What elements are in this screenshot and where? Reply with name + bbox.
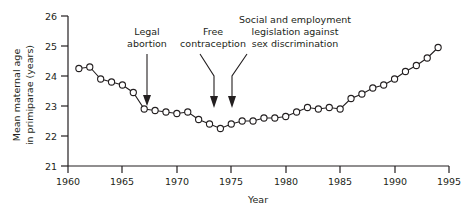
x-tick-label: 1970 bbox=[165, 176, 189, 187]
data-point bbox=[283, 113, 289, 119]
annotation-arrow-head bbox=[210, 96, 218, 108]
data-point bbox=[424, 55, 430, 61]
chart-container: 26 25 24 23 22 21 1960 1965 1970 1975 19… bbox=[0, 0, 467, 214]
data-point bbox=[250, 118, 256, 124]
data-point bbox=[163, 109, 169, 115]
data-point bbox=[76, 65, 82, 71]
data-point bbox=[174, 110, 180, 116]
data-point bbox=[348, 95, 354, 101]
data-point bbox=[206, 121, 212, 127]
data-point bbox=[370, 85, 376, 91]
data-point bbox=[196, 116, 202, 122]
annotation-arrow-shaft bbox=[232, 54, 247, 98]
annotation-text-line1: Free bbox=[203, 26, 223, 37]
y-tick-label: 23 bbox=[45, 101, 57, 112]
annotation-text-line1: Legal bbox=[134, 26, 159, 37]
y-tick-label: 21 bbox=[45, 161, 57, 172]
x-tick-label: 1985 bbox=[328, 176, 352, 187]
y-axis-title-line1: Mean maternal age bbox=[11, 49, 22, 142]
x-tick-label: 1995 bbox=[437, 176, 461, 187]
annotation-text-line2: legislation against bbox=[252, 26, 339, 37]
y-tick-label: 25 bbox=[45, 41, 57, 52]
data-point bbox=[435, 44, 441, 50]
data-point bbox=[185, 109, 191, 115]
data-point bbox=[217, 125, 223, 131]
x-axis-ticks bbox=[68, 166, 449, 173]
data-point bbox=[108, 79, 114, 85]
x-tick-label: 1975 bbox=[219, 176, 243, 187]
data-point bbox=[272, 115, 278, 121]
y-axis-title-line2: in primiparae (years) bbox=[24, 45, 35, 145]
data-point bbox=[315, 106, 321, 112]
annotation-free-contraception: Free contraception bbox=[180, 26, 246, 108]
annotation-text-line3: sex discrimination bbox=[252, 38, 339, 49]
x-tick-label: 1965 bbox=[110, 176, 134, 187]
data-point bbox=[381, 82, 387, 88]
annotation-arrow-head bbox=[228, 96, 236, 108]
data-point bbox=[239, 118, 245, 124]
data-point bbox=[391, 76, 397, 82]
y-tick-label: 26 bbox=[45, 11, 57, 22]
x-tick-label: 1980 bbox=[274, 176, 298, 187]
data-point bbox=[261, 115, 267, 121]
x-axis-tick-labels: 1960 1965 1970 1975 1980 1985 1990 1995 bbox=[56, 176, 461, 187]
y-tick-label: 22 bbox=[45, 131, 57, 142]
data-point bbox=[98, 76, 104, 82]
data-point bbox=[152, 107, 158, 113]
data-point bbox=[413, 62, 419, 68]
annotation-text-line2: abortion bbox=[127, 38, 167, 49]
data-point bbox=[87, 64, 93, 70]
data-point bbox=[402, 68, 408, 74]
data-point bbox=[130, 89, 136, 95]
data-point bbox=[228, 121, 234, 127]
data-markers bbox=[76, 44, 441, 131]
x-tick-label: 1960 bbox=[56, 176, 80, 187]
y-tick-label: 24 bbox=[45, 71, 57, 82]
data-point bbox=[141, 106, 147, 112]
data-point bbox=[337, 106, 343, 112]
annotation-sex-discrimination: Social and employment legislation agains… bbox=[228, 14, 351, 108]
annotation-arrow-shaft bbox=[200, 54, 214, 98]
data-point bbox=[304, 104, 310, 110]
annotation-text-line1: Social and employment bbox=[239, 14, 351, 25]
x-tick-label: 1990 bbox=[383, 176, 407, 187]
data-point bbox=[359, 91, 365, 97]
annotation-arrow-head bbox=[143, 95, 151, 106]
x-axis-title: Year bbox=[247, 194, 268, 205]
y-axis-ticks bbox=[61, 16, 68, 166]
data-point bbox=[326, 104, 332, 110]
data-point bbox=[294, 109, 300, 115]
annotation-text-line2: contraception bbox=[180, 38, 246, 49]
data-point bbox=[119, 82, 125, 88]
y-axis-tick-labels: 26 25 24 23 22 21 bbox=[45, 11, 57, 172]
line-chart: 26 25 24 23 22 21 1960 1965 1970 1975 19… bbox=[0, 0, 467, 214]
